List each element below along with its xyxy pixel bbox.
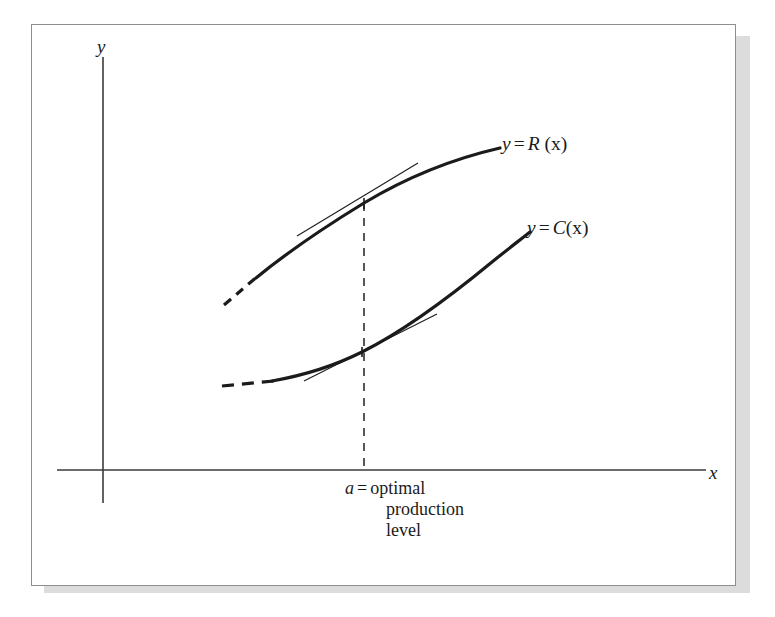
caption-row-1: a=optimal	[345, 478, 464, 499]
tangent-line-cost	[304, 314, 437, 381]
figure-root: y x y=R (x) y=C(x) a=optimal production …	[0, 0, 775, 617]
optimal-level-caption: a=optimal production level	[345, 478, 464, 541]
caption-line-2: production	[386, 499, 464, 519]
cost-label-variable: y	[527, 217, 536, 238]
revenue-label-variable: y	[502, 133, 511, 154]
revenue-label-equals: =	[511, 133, 528, 154]
cost-label-function: C	[553, 217, 566, 238]
caption-row-3: level	[345, 520, 464, 541]
cost-label-equals: =	[536, 217, 553, 238]
cost-curve-label: y=C(x)	[527, 216, 588, 239]
caption-symbol: a	[345, 478, 354, 498]
caption-line-1: optimal	[370, 478, 425, 498]
revenue-curve-label: y=R (x)	[502, 132, 567, 155]
cost-curve	[272, 232, 530, 381]
cost-curve-dashed-segment	[222, 381, 274, 386]
cost-label-argument: (x)	[566, 217, 589, 238]
tangent-line-revenue	[297, 163, 418, 236]
x-axis-label: x	[709, 462, 717, 484]
y-axis-label: y	[97, 36, 105, 58]
revenue-curve	[256, 148, 500, 278]
revenue-label-argument: (x)	[544, 133, 567, 154]
caption-row-2: production	[345, 499, 464, 520]
caption-line-3: level	[386, 520, 421, 540]
caption-equals: =	[354, 478, 370, 498]
revenue-curve-dashed-segment	[224, 276, 258, 305]
revenue-label-function: R	[528, 133, 540, 154]
